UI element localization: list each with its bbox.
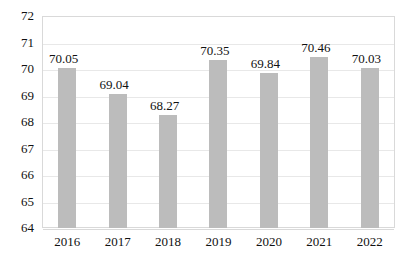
- bar-slot: 70.05: [42, 16, 92, 228]
- bar[interactable]: [209, 60, 227, 228]
- bar-value-label: 70.35: [200, 44, 229, 57]
- bar-slot: 69.84: [244, 16, 294, 228]
- bar-slot: 68.27: [143, 16, 193, 228]
- bars-layer: 70.0569.0468.2770.3569.8470.4670.03: [42, 16, 395, 228]
- bar-slot: 69.04: [92, 16, 142, 228]
- x-tick-label: 2020: [244, 234, 294, 250]
- y-tick-label: 66: [0, 167, 34, 183]
- bar[interactable]: [260, 73, 278, 228]
- bar-value-label: 69.84: [251, 57, 280, 70]
- x-tick-label: 2016: [42, 234, 92, 250]
- bar[interactable]: [58, 68, 76, 228]
- gridline-64: [43, 229, 394, 230]
- bar[interactable]: [310, 57, 328, 228]
- y-tick-label: 67: [0, 141, 34, 157]
- y-tick-label: 65: [0, 194, 34, 210]
- y-tick-label: 71: [0, 35, 34, 51]
- bar-chart: 646566676869707172 70.0569.0468.2770.356…: [0, 0, 417, 265]
- x-tick-label: 2021: [294, 234, 344, 250]
- y-tick-label: 72: [0, 8, 34, 24]
- bar-value-label: 68.27: [150, 99, 179, 112]
- bar[interactable]: [361, 68, 379, 228]
- y-tick-label: 64: [0, 220, 34, 236]
- bar-value-label: 70.05: [49, 52, 78, 65]
- bar-value-label: 70.46: [301, 41, 330, 54]
- x-tick-label: 2022: [345, 234, 395, 250]
- y-tick-label: 70: [0, 61, 34, 77]
- y-tick-label: 69: [0, 88, 34, 104]
- x-tick-label: 2018: [143, 234, 193, 250]
- x-tick-label: 2017: [92, 234, 142, 250]
- x-tick-label: 2019: [193, 234, 243, 250]
- y-tick-label: 68: [0, 114, 34, 130]
- bar[interactable]: [109, 94, 127, 228]
- bar-slot: 70.03: [345, 16, 395, 228]
- bar-value-label: 70.03: [352, 52, 381, 65]
- bar-slot: 70.46: [294, 16, 344, 228]
- bar-value-label: 69.04: [99, 78, 128, 91]
- bar-slot: 70.35: [193, 16, 243, 228]
- x-axis: 2016201720182019202020212022: [42, 234, 395, 254]
- bar[interactable]: [159, 115, 177, 228]
